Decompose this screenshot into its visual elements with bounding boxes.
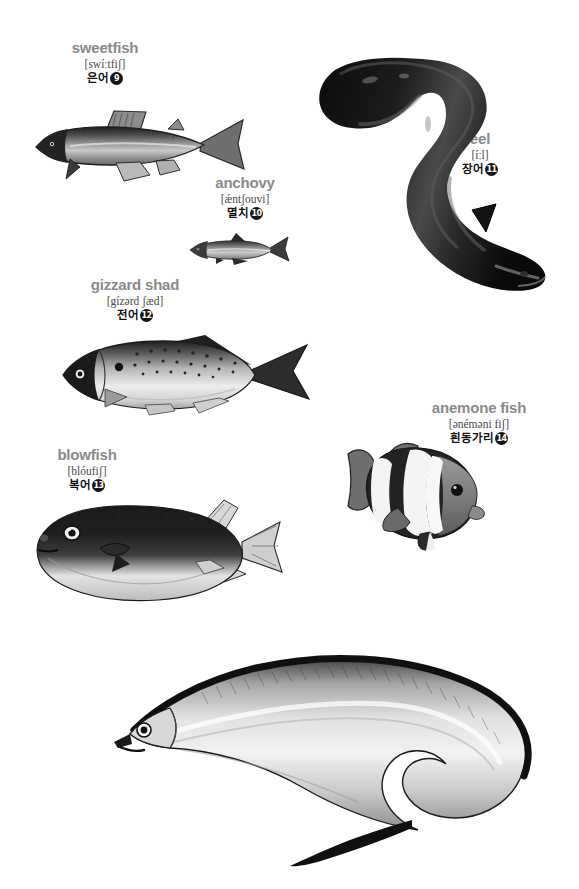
anchovy-phonetic: [ǽntʃouvi] — [190, 193, 300, 206]
anchovy-illustration — [186, 231, 292, 267]
sweetfish-number-badge: 9 — [110, 72, 123, 85]
label-gizzard-shad: gizzard shad [gízərd ʃæd] 전어12 — [65, 277, 205, 322]
blowfish-phonetic: [blóufiʃ] — [32, 465, 142, 478]
anchovy-korean-line: 멸치10 — [190, 207, 300, 220]
fish-vocabulary-page: sweetfish [swíːtfiʃ] 은어9 — [0, 0, 579, 889]
anchovy-english-name: anchovy — [190, 175, 300, 192]
gizzard-shad-english-name: gizzard shad — [65, 277, 205, 294]
anemone-fish-phonetic: [ənéməni fiʃ] — [404, 418, 554, 431]
cutlassfish-illustration — [112, 638, 542, 868]
blowfish-english-name: blowfish — [32, 447, 142, 464]
label-blowfish: blowfish [blóufiʃ] 복어13 — [32, 447, 142, 492]
gizzard-shad-korean-name: 전어 — [117, 308, 139, 322]
gizzard-shad-number-badge: 12 — [140, 309, 153, 322]
label-sweetfish: sweetfish [swíːtfiʃ] 은어9 — [40, 40, 170, 85]
gizzard-shad-phonetic: [gízərd ʃæd] — [65, 295, 205, 308]
eel-illustration — [300, 28, 560, 318]
anemone-fish-english-name: anemone fish — [404, 400, 554, 417]
sweetfish-english-name: sweetfish — [40, 40, 170, 57]
gizzard-shad-korean-line: 전어12 — [65, 309, 205, 322]
sweetfish-phonetic: [swíːtfiʃ] — [40, 58, 170, 71]
anchovy-korean-name: 멸치 — [227, 206, 249, 220]
label-anchovy: anchovy [ǽntʃouvi] 멸치10 — [190, 175, 300, 220]
sweetfish-korean-name: 은어 — [87, 71, 109, 85]
gizzard-shad-illustration — [53, 327, 318, 419]
anemone-fish-illustration — [344, 432, 496, 552]
anemone-fish-number-badge: 14 — [495, 432, 508, 445]
blowfish-illustration — [28, 488, 294, 618]
anchovy-number-badge: 10 — [250, 207, 263, 220]
sweetfish-korean-line: 은어9 — [40, 72, 170, 85]
